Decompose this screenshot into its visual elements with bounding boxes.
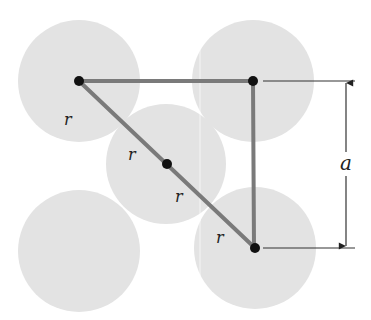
center-dot-bottom-right xyxy=(250,243,260,253)
center-dot-top-left xyxy=(74,76,84,86)
lattice-parameter-label: a xyxy=(340,151,352,175)
radius-label: r xyxy=(64,110,73,129)
right-edge-line xyxy=(253,81,254,248)
center-dot-center xyxy=(162,159,172,169)
radius-label: r xyxy=(128,145,137,164)
radius-label: r xyxy=(216,228,225,247)
radius-label: r xyxy=(175,187,184,206)
atom-bottom-left xyxy=(18,190,140,312)
bcc-geometry-diagram: r r r r a xyxy=(0,0,371,320)
center-dot-top-right xyxy=(248,76,258,86)
